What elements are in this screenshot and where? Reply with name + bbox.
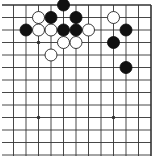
black-stone (58, 24, 70, 36)
black-stone (120, 62, 132, 74)
black-stone (120, 24, 132, 36)
white-stone (58, 37, 70, 49)
black-stone (58, 0, 70, 11)
white-stone (33, 12, 45, 24)
black-stone (45, 12, 57, 24)
white-stone (108, 12, 120, 24)
star-point (112, 116, 116, 120)
black-stone (70, 24, 82, 36)
star-point (37, 116, 41, 120)
go-board[interactable] (0, 0, 152, 156)
white-stone (45, 49, 57, 61)
star-point (37, 41, 41, 45)
white-stone (70, 37, 82, 49)
white-stone (83, 24, 95, 36)
black-stone (108, 37, 120, 49)
black-stone (20, 24, 32, 36)
white-stone (45, 24, 57, 36)
white-stone (33, 24, 45, 36)
black-stone (70, 12, 82, 24)
